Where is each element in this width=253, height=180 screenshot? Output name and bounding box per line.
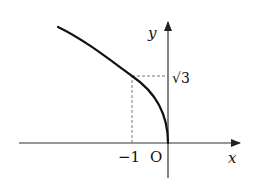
y-axis-label: y xyxy=(147,24,157,42)
function-curve xyxy=(58,27,168,143)
graph: y x O −1 √3 xyxy=(0,0,253,180)
y-tick-label: √3 xyxy=(172,70,190,86)
origin-label: O xyxy=(150,148,162,166)
x-axis-label: x xyxy=(228,149,237,167)
x-tick-label: −1 xyxy=(118,148,140,166)
